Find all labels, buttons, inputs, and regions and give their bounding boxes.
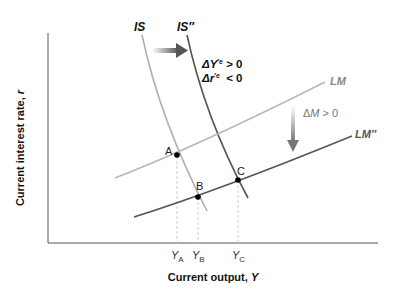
- is-label: IS: [134, 20, 145, 34]
- x-tick-yb-sub: B: [199, 255, 204, 264]
- point-b-label: B: [196, 180, 203, 192]
- point-a: [174, 152, 180, 158]
- delta-r-rest: < 0: [220, 72, 243, 84]
- delta-y-base: ΔY: [201, 58, 219, 70]
- point-b: [195, 194, 201, 200]
- x-tick-ya: YA: [171, 249, 184, 264]
- x-tick-yb: YB: [192, 249, 205, 264]
- x-axis-title-var: Y: [251, 271, 260, 283]
- is-shifted-label: IS″: [177, 20, 195, 34]
- point-a-label: A: [165, 145, 173, 157]
- delta-y-annotation: ΔY′e > 0: [201, 58, 243, 70]
- lm-label: LM: [330, 75, 347, 87]
- delta-r-base: Δr: [201, 72, 215, 84]
- delta-m-rest: > 0: [320, 107, 339, 119]
- lm-shift-arrow: [287, 106, 299, 152]
- is-shift-arrow: [152, 43, 188, 58]
- x-axis-title-prefix: Current output,: [168, 271, 251, 283]
- delta-r-annotation: Δr′e < 0: [201, 72, 242, 84]
- y-axis-title-prefix: Current interest rate,: [14, 94, 26, 206]
- x-tick-yc: YC: [232, 249, 245, 264]
- point-c: [235, 177, 241, 183]
- x-axis-title: Current output, Y: [168, 271, 260, 283]
- x-tick-yc-sub: C: [239, 255, 245, 264]
- point-c-label: C: [237, 165, 245, 177]
- x-tick-ya-sub: A: [178, 255, 184, 264]
- lm-shifted-label: LM″: [355, 128, 377, 140]
- delta-m-annotation: ΔM > 0: [303, 107, 338, 119]
- y-axis-title: Current interest rate, r: [14, 89, 26, 206]
- is-lm-diagram: A B C IS IS″ LM LM″ ΔY′e > 0 Δr′e < 0 ΔM…: [0, 0, 399, 293]
- y-axis-title-var: r: [14, 89, 26, 94]
- delta-y-rest: > 0: [223, 58, 243, 70]
